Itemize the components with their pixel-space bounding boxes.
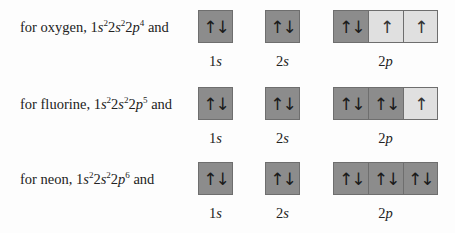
orbital-box-2p: ↑↓↑↑ — [333, 10, 438, 43]
paired-spin-arrows-icon: ↑↓ — [334, 11, 368, 42]
electron-configuration-text: for oxygen, 1s22s22p4 and — [20, 20, 169, 35]
subshell-label-letter: p — [386, 130, 393, 146]
subshell-label-letter: p — [386, 205, 393, 221]
row-oxygen: for oxygen, 1s22s22p4 and↑↓1s↑↓2s↑↓↑↑2p — [0, 0, 455, 75]
subshell-label-letter: s — [216, 130, 222, 146]
orbital-box-1s: ↑↓ — [198, 87, 233, 120]
subshell-label: 2p — [366, 131, 406, 146]
subshell-label-letter: s — [283, 130, 289, 146]
orbital-box-2s: ↑↓ — [265, 87, 300, 120]
subshell-letter: p — [136, 96, 143, 112]
subshell-letter: p — [133, 19, 140, 35]
subshell-label-number: 2 — [378, 130, 385, 146]
subshell-label-letter: s — [216, 53, 222, 69]
shell-number: 2 — [125, 19, 132, 35]
config-prefix: for oxygen, — [20, 19, 90, 35]
subshell-label-number: 2 — [378, 53, 385, 69]
subshell-label: 2s — [263, 131, 303, 146]
paired-spin-arrows-icon: ↑↓ — [266, 88, 299, 119]
subshell-label: 2p — [366, 54, 406, 69]
paired-spin-arrows-icon: ↑↓ — [334, 88, 368, 119]
electron-configuration-text: for neon, 1s22s22p6 and — [20, 172, 154, 187]
subshell-label-number: 2 — [378, 205, 385, 221]
shell-number: 2 — [129, 96, 136, 112]
subshell-label-letter: p — [386, 53, 393, 69]
config-suffix: and — [144, 19, 169, 35]
paired-spin-arrows-icon: ↑↓ — [334, 163, 368, 194]
subshell-label-letter: s — [283, 53, 289, 69]
paired-spin-arrows-icon: ↑↓ — [368, 88, 402, 119]
subshell-label: 1s — [196, 54, 236, 69]
config-prefix: for neon, — [20, 171, 76, 187]
subshell-label: 2s — [263, 54, 303, 69]
orbital-box-2s: ↑↓ — [265, 10, 300, 43]
paired-spin-arrows-icon: ↑↓ — [266, 11, 299, 42]
shell-number: 1 — [94, 96, 101, 112]
paired-spin-arrows-icon: ↑↓ — [199, 11, 232, 42]
paired-spin-arrows-icon: ↑↓ — [199, 88, 232, 119]
paired-spin-arrows-icon: ↑↓ — [403, 163, 437, 194]
orbital-box-2p: ↑↓↑↓↑ — [333, 87, 438, 120]
orbital-box-1s: ↑↓ — [198, 162, 233, 195]
paired-spin-arrows-icon: ↑↓ — [266, 163, 299, 194]
paired-spin-arrows-icon: ↑↓ — [199, 163, 232, 194]
single-spin-up-arrow-icon: ↑ — [403, 88, 437, 119]
config-prefix: for fluorine, — [20, 96, 94, 112]
electron-configuration-text: for fluorine, 1s22s22p5 and — [20, 97, 172, 112]
single-spin-up-arrow-icon: ↑ — [403, 11, 437, 42]
orbital-box-2p: ↑↓↑↓↑↓ — [333, 162, 438, 195]
row-neon: for neon, 1s22s22p6 and↑↓1s↑↓2s↑↓↑↓↑↓2p — [0, 152, 455, 227]
orbital-box-1s: ↑↓ — [198, 10, 233, 43]
single-spin-up-arrow-icon: ↑ — [368, 11, 402, 42]
row-fluorine: for fluorine, 1s22s22p5 and↑↓1s↑↓2s↑↓↑↓↑… — [0, 77, 455, 152]
subshell-label: 1s — [196, 131, 236, 146]
config-suffix: and — [130, 171, 155, 187]
shell-number: 1 — [90, 19, 97, 35]
orbital-box-2s: ↑↓ — [265, 162, 300, 195]
subshell-label: 2s — [263, 206, 303, 221]
paired-spin-arrows-icon: ↑↓ — [368, 163, 402, 194]
subshell-label-letter: s — [283, 205, 289, 221]
subshell-label: 1s — [196, 206, 236, 221]
config-suffix: and — [148, 96, 173, 112]
subshell-label: 2p — [366, 206, 406, 221]
subshell-label-letter: s — [216, 205, 222, 221]
shell-number: 2 — [93, 171, 100, 187]
shell-number: 2 — [111, 171, 118, 187]
